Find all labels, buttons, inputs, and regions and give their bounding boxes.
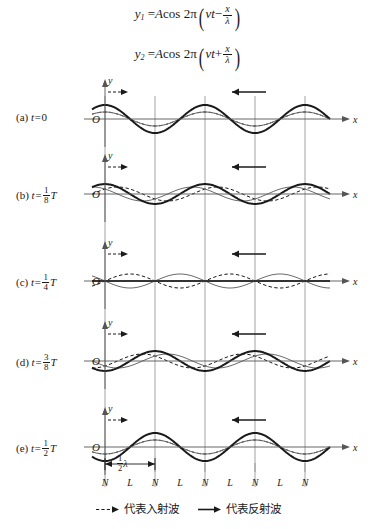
equation-y1: y1 =Acos 2π(νt−xλ) [0,4,376,31]
panel-time-denominator: 4 [42,283,49,292]
eq2-equals: = [148,46,155,61]
incident-direction-arrow [108,251,128,257]
reflected-direction-arrow [232,251,266,258]
panel-tag: (b) [16,189,29,201]
eq1-frac-numerator: x [223,4,231,16]
reflected-direction-arrow [232,164,266,171]
panel-time-period-symbol: T [50,442,56,454]
incident-direction-arrow [108,331,128,337]
x-axis-label: x [352,356,358,367]
wave-panel-a: yxO [84,75,358,147]
panel-time-value: 0 [41,111,47,123]
panel-time-fraction: 14 [42,273,49,293]
eq1-equals: = [148,6,155,21]
eq2-coefficient: 2π [184,46,197,61]
node-label-8: N [301,477,310,488]
panel-label-d: (d) t=38T [16,353,57,373]
loop-label-1: L [126,477,133,488]
reflected-direction-arrow [232,89,266,96]
reflected-legend-swatch [197,505,223,514]
incident-legend-swatch [95,505,121,514]
node-label-2: N [151,477,160,488]
panel-time-fraction: 12 [42,439,49,459]
origin-label: O [92,113,100,125]
eq1-frac-denominator: λ [223,16,231,27]
panel-tag: (e) [16,442,28,454]
wave-panel-c: yxO [84,237,358,309]
panel-time-prefix: t= [31,111,41,123]
x-axis-arrowhead [342,116,350,122]
eq1-operator: − [215,6,222,21]
wave-panel-d: yxO [84,317,358,389]
panel-time-denominator: 2 [42,449,49,458]
panel-label-c: (c) t=14T [16,273,56,293]
loop-label-7: L [276,477,283,488]
half-wavelength-label: 12λ [117,454,128,472]
eq2-close-paren: ) [234,45,239,71]
eq2-open-paren: ( [198,45,203,71]
eq1-function: cos [163,6,180,21]
standing-wave-figure: yxOyxOyxOyxOyxONLNLNLNLN [0,0,376,529]
incident-direction-arrow [108,89,128,95]
panel-label-e: (e) t=12T [16,439,56,459]
y-axis-label: y [107,150,113,161]
panel-time-prefix: t= [31,442,41,454]
equations-block: y1 =Acos 2π(νt−xλ) y2 =Acos 2π(νt+xλ) [0,4,376,71]
panel-time-prefix: t= [31,276,41,288]
eq1-term-nu-t: νt [205,6,214,21]
y-axis-label: y [107,75,113,86]
eq1-coefficient: 2π [184,6,197,21]
x-axis-arrowhead [342,191,350,197]
origin-label: O [92,441,100,453]
incident-direction-arrow [108,164,128,170]
eq2-function: cos [163,46,180,61]
eq1-amplitude: A [155,6,163,21]
eq2-operator: + [215,46,222,61]
eq1-fraction: xλ [223,4,231,26]
panel-time-prefix: t= [32,189,42,201]
loop-label-5: L [226,477,233,488]
eq2-subscript: 2 [141,53,145,62]
panel-time-period-symbol: T [50,276,56,288]
eq1-subscript: 1 [141,13,145,22]
panel-time-denominator: 8 [43,363,50,372]
panel-time-denominator: 8 [43,196,50,205]
eq1-close-paren: ) [234,5,239,31]
incident-legend-text: 代表入射波 [124,502,179,516]
loop-label-3: L [176,477,183,488]
eq2-frac-denominator: λ [223,55,231,66]
panel-tag: (a) [16,111,28,123]
x-axis-arrowhead [342,358,350,364]
x-axis-arrowhead [342,278,350,284]
x-axis-label: x [352,114,358,125]
panel-time-period-symbol: T [51,356,57,368]
origin-label: O [92,275,100,287]
panel-time-period-symbol: T [51,189,57,201]
y-axis-label: y [107,403,113,414]
eq2-term-nu-t: νt [205,46,214,61]
panel-time-fraction: 38 [43,353,50,373]
panel-time-prefix: t= [32,356,42,368]
eq1-open-paren: ( [198,5,203,31]
panel-label-b: (b) t=18T [16,186,57,206]
x-axis-label: x [352,189,358,200]
wave-panel-b: yxO [84,150,358,222]
y-axis-label: y [107,237,113,248]
node-label-6: N [251,477,260,488]
panel-label-a: (a) t=0 [16,111,47,123]
origin-label: O [92,188,100,200]
half-wavelength-symbol: λ [123,458,127,469]
figure-legend: 代表入射波 代表反射波 [0,500,376,516]
panel-tag: (d) [16,356,29,368]
x-axis-label: x [352,276,358,287]
node-label-4: N [201,477,210,488]
reflected-direction-arrow [232,417,266,424]
reflected-legend-text: 代表反射波 [226,502,281,516]
node-label-0: N [101,477,110,488]
eq2-amplitude: A [155,46,163,61]
x-axis-label: x [352,442,358,453]
x-axis-arrowhead [342,444,350,450]
panel-tag: (c) [16,276,28,288]
panel-time-fraction: 18 [43,186,50,206]
eq2-fraction: xλ [223,44,231,66]
